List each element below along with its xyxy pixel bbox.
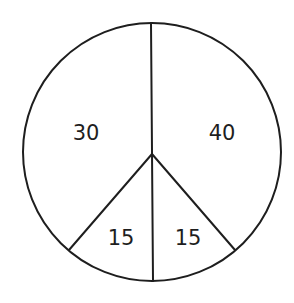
slice-label-upper-left: 30 bbox=[73, 121, 100, 145]
slice-label-lower-right: 15 bbox=[175, 226, 202, 250]
slice-label-lower-left: 15 bbox=[108, 226, 135, 250]
slice-label-upper-right: 40 bbox=[209, 121, 236, 145]
pie-chart-svg: 30 40 15 15 bbox=[0, 0, 294, 303]
pie-chart: 30 40 15 15 bbox=[0, 0, 294, 303]
